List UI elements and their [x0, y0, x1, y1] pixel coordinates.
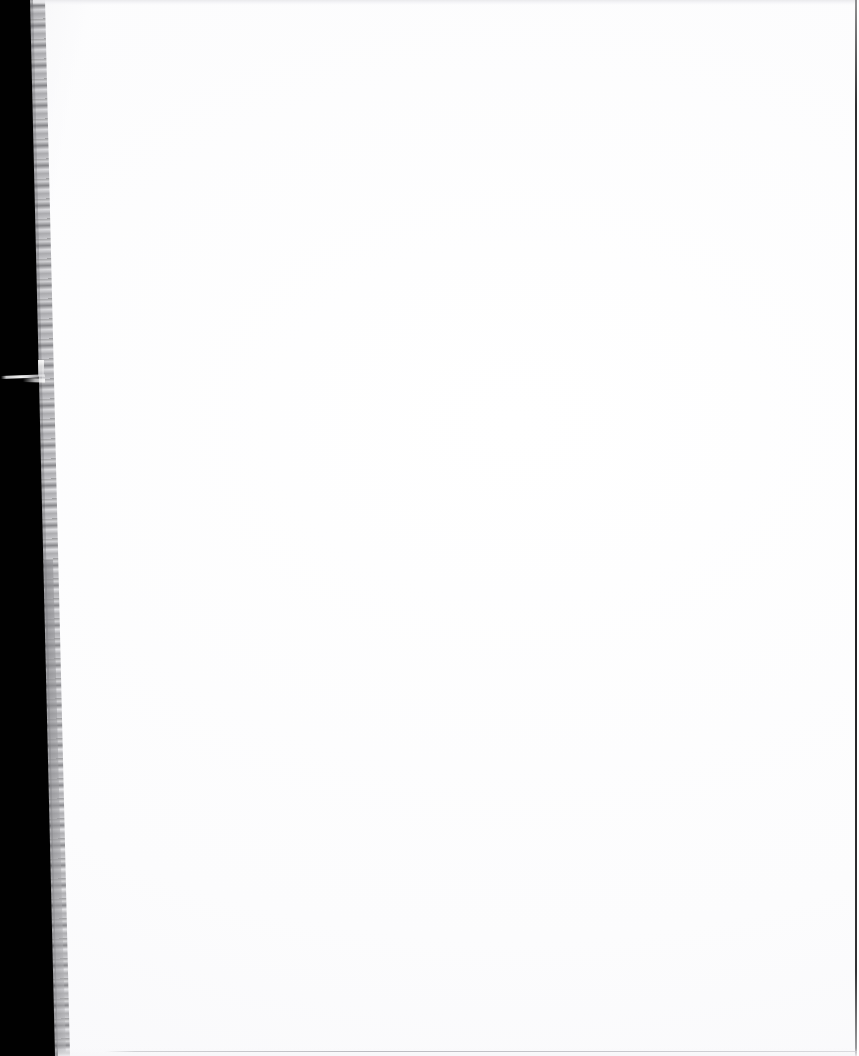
page-sheet	[0, 0, 859, 1056]
page-text-content	[110, 60, 799, 996]
scanned-page	[0, 0, 859, 1056]
